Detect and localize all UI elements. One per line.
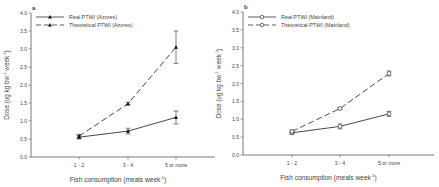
circle-marker-icon [387, 112, 391, 116]
y-tick-label: 2.5 [232, 63, 239, 69]
y-tick-label: 0.0 [20, 154, 27, 160]
y-tick-label: 0.5 [232, 134, 239, 140]
y-tick-label: 4.0 [20, 10, 27, 16]
y-tick-label: 2.0 [20, 82, 27, 88]
y-tick-label: 1.5 [232, 98, 239, 104]
circle-marker-icon [387, 72, 391, 76]
chart-panel-a: 0.00.51.01.52.02.53.03.54.01 - 23 - 45 o… [2, 5, 215, 184]
legend-label: Theoretical PTWI (Azores) [69, 22, 133, 28]
legend-label: Theoretical PTWI (Mainland) [281, 22, 350, 28]
x-tick-label: 3 - 4 [123, 162, 133, 168]
panel-label: a [32, 5, 36, 11]
y-tick-label: 4.0 [232, 9, 239, 15]
y-tick-label: 3.5 [232, 27, 239, 33]
y-tick-label: 2.5 [20, 64, 27, 70]
circle-marker-icon [338, 107, 342, 111]
x-tick-label: 3 - 4 [335, 160, 345, 166]
panel-label: b [244, 4, 248, 10]
circle-marker-icon [338, 125, 342, 129]
legend-circle-icon [260, 15, 264, 19]
y-tick-label: 1.0 [232, 116, 239, 122]
y-tick-label: 3.0 [20, 46, 27, 52]
x-tick-label: 1 - 2 [287, 160, 297, 166]
legend-label: Real PTWI (Azores) [69, 14, 117, 20]
series-line-1 [292, 73, 389, 131]
y-axis-label: Dose (ug kg bw-1 week-1) [214, 49, 223, 118]
y-tick-label: 1.5 [20, 100, 27, 106]
x-axis-label: Fish consumption (meals week-1) [280, 173, 376, 182]
series-line-1 [79, 47, 176, 136]
y-tick-label: 3.5 [20, 28, 27, 34]
series-line-0 [292, 114, 389, 133]
figure: 0.00.51.01.52.02.53.03.54.01 - 23 - 45 o… [0, 0, 439, 187]
x-tick-label: 1 - 2 [74, 162, 84, 168]
legend-label: Real PTWI (Mainland) [281, 14, 334, 20]
y-tick-label: 1.0 [20, 118, 27, 124]
x-tick-label: 5 or more [378, 160, 400, 166]
triangle-marker-icon [174, 115, 178, 119]
chart-panel-b: 0.00.51.01.52.02.53.03.54.01 - 23 - 45 o… [214, 4, 434, 182]
y-tick-label: 3.0 [232, 45, 239, 51]
x-tick-label: 5 or more [165, 162, 187, 168]
y-tick-label: 0.5 [20, 136, 27, 142]
y-axis-label: Dose (ug kg bw-1 week-1) [2, 50, 11, 119]
legend-circle-icon [260, 23, 264, 27]
y-tick-label: 2.0 [232, 81, 239, 87]
y-tick-label: 0.0 [232, 152, 239, 158]
circle-marker-icon [290, 130, 294, 134]
x-axis-label: Fish consumption (meals week-1) [70, 175, 166, 184]
triangle-marker-icon [174, 45, 178, 49]
